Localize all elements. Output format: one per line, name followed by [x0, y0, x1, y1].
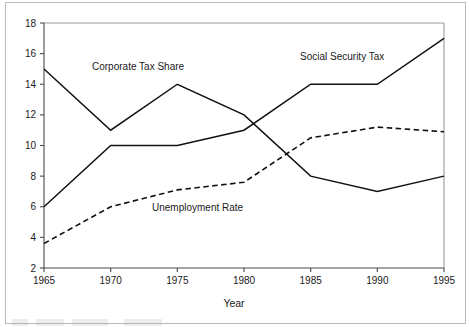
chart-canvas: 24681012141618 1965197019751980198519901… [0, 0, 469, 327]
y-axis-tick-labels: 24681012141618 [25, 18, 37, 274]
y-axis-ticks [40, 23, 44, 268]
x-axis-ticks [44, 268, 444, 272]
y-tick-label: 2 [30, 263, 36, 274]
y-tick-label: 16 [25, 48, 37, 59]
page-footer-artifact [12, 319, 212, 326]
series-line-unemployment-rate [44, 127, 444, 243]
x-tick-label: 1990 [366, 275, 389, 286]
y-tick-label: 4 [30, 232, 36, 243]
y-tick-label: 12 [25, 109, 37, 120]
series-label-social-security-tax: Social Security Tax [300, 51, 384, 62]
y-tick-label: 18 [25, 18, 37, 29]
y-tick-label: 14 [25, 79, 37, 90]
x-axis-title: Year [223, 297, 245, 309]
series-label-corporate-tax-share: Corporate Tax Share [92, 61, 185, 72]
x-tick-label: 1995 [433, 275, 456, 286]
x-tick-label: 1980 [233, 275, 256, 286]
x-tick-label: 1965 [33, 275, 56, 286]
y-tick-label: 8 [30, 171, 36, 182]
line-chart-figure: 24681012141618 1965197019751980198519901… [0, 0, 469, 327]
series-label-unemployment-rate: Unemployment Rate [152, 202, 244, 213]
x-tick-label: 1985 [300, 275, 323, 286]
x-tick-label: 1970 [100, 275, 123, 286]
x-tick-label: 1975 [166, 275, 189, 286]
x-axis-tick-labels: 1965197019751980198519901995 [33, 275, 456, 286]
y-tick-label: 6 [30, 201, 36, 212]
y-tick-label: 10 [25, 140, 37, 151]
